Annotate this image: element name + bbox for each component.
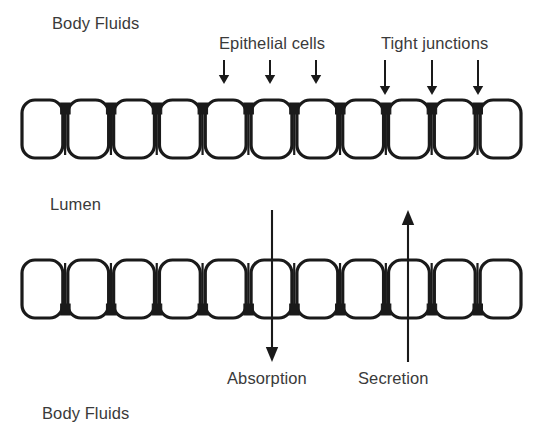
secretion-flow-arrow	[0, 0, 543, 439]
epithelial-transport-diagram: Body Fluids Epithelial cells Tight junct…	[0, 0, 543, 439]
arrow-head	[402, 210, 414, 225]
